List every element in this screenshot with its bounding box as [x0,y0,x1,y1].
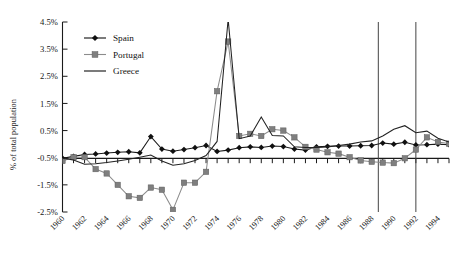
y-axis-tick-marks [63,22,68,212]
series-spain [60,134,452,162]
data-point-marker-spain [137,150,143,156]
x-axis-tick-label: 1968 [137,214,155,232]
data-point-marker-portugal [325,150,330,155]
y-axis-tick-labels: 4.5%3.5%2.5%1.5%0.5%-0.5%-1.5%-2.5% [37,17,58,217]
data-series-layer [60,19,452,212]
data-point-marker-portugal [71,154,76,159]
data-point-marker-portugal [115,182,120,187]
data-point-marker-portugal [137,195,142,200]
data-point-marker-portugal [336,151,341,156]
chart-legend: SpainPortugalGreece [84,33,145,76]
legend-item-spain: Spain [84,33,134,43]
x-axis-tick-label: 1982 [291,214,309,232]
data-point-marker-portugal [203,169,208,174]
data-point-marker-portugal [104,171,109,176]
data-point-marker-spain [203,143,209,149]
data-point-marker-portugal [159,187,164,192]
x-axis-tick-label: 1988 [357,214,375,232]
data-point-marker-portugal [358,158,363,163]
data-point-marker-portugal [181,180,186,185]
legend-item-portugal: Portugal [84,50,145,60]
y-axis-tick-label: -0.5% [37,153,58,163]
data-point-marker-spain [115,149,121,155]
data-point-marker-spain [258,145,264,151]
data-point-marker-spain [236,145,242,151]
data-point-marker-spain [391,141,397,147]
data-point-marker-spain [93,151,99,157]
data-point-marker-spain [369,143,375,149]
data-point-marker-spain [402,139,408,145]
diamond-marker-icon [92,35,98,41]
data-point-marker-spain [358,143,364,149]
y-axis-tick-label: 3.5% [40,44,58,54]
x-axis-tick-labels: 1960196219641966196819701972197419761978… [48,213,442,232]
data-point-marker-portugal [292,135,297,140]
y-axis-tick-label: 1.5% [40,99,58,109]
y-axis-title-group: % of total population [9,98,18,170]
x-axis-tick-label: 1986 [335,214,353,232]
data-point-marker-portugal [259,133,264,138]
data-point-marker-portugal [192,180,197,185]
data-point-marker-spain [380,140,386,146]
data-point-marker-portugal [93,166,98,171]
y-axis-tick-label: 2.5% [40,71,58,81]
data-point-marker-spain [424,142,430,148]
data-point-marker-portugal [380,160,385,165]
x-axis-tick-label: 1966 [114,214,132,232]
data-point-marker-spain [214,149,220,155]
x-axis-tick-label: 1962 [70,214,88,232]
x-axis-tick-label: 1984 [313,213,332,232]
data-point-marker-portugal [435,139,440,144]
legend-label: Spain [113,33,134,43]
data-point-marker-portugal [126,194,131,199]
x-axis-tick-label: 1972 [181,214,199,232]
data-point-marker-portugal [60,158,65,163]
data-point-marker-spain [269,143,275,149]
net-migration-line-chart: % of total population 4.5%3.5%2.5%1.5%0.… [0,0,456,267]
data-point-marker-spain [225,147,231,153]
y-axis-tick-label: 0.5% [40,126,58,136]
data-point-marker-spain [280,144,286,150]
y-axis-title: % of total population [9,98,18,170]
y-axis-tick-label: -1.5% [37,180,58,190]
data-point-marker-portugal [424,135,429,140]
x-axis-tick-label: 1974 [203,213,222,232]
legend-label: Greece [113,66,139,76]
data-point-marker-spain [126,149,132,155]
data-point-marker-spain [170,148,176,154]
chart-container: % of total population 4.5%3.5%2.5%1.5%0.… [0,0,456,267]
x-axis-tick-label: 1994 [424,213,443,232]
data-point-marker-spain [104,150,110,156]
y-axis-tick-label: -2.5% [37,207,58,217]
x-axis-tick-label: 1992 [402,214,420,232]
data-point-marker-portugal [148,185,153,190]
x-axis-tick-label: 1970 [159,214,177,232]
data-point-marker-portugal [82,154,87,159]
data-point-marker-portugal [369,159,374,164]
data-point-marker-portugal [347,154,352,159]
x-axis-tick-label: 1976 [225,214,243,232]
x-axis-tick-label: 1990 [379,214,397,232]
data-point-marker-portugal [214,89,219,94]
series-path-spain [63,137,450,159]
vertical-reference-lines [378,22,416,212]
y-axis-tick-label: 4.5% [40,17,58,27]
data-point-marker-spain [247,144,253,150]
legend-label: Portugal [113,50,145,60]
data-point-marker-spain [192,145,198,151]
x-axis-tick-label: 1964 [92,213,111,232]
data-point-marker-portugal [391,160,396,165]
data-point-marker-portugal [402,156,407,161]
data-point-marker-portugal [170,207,175,212]
x-axis-tick-label: 1978 [247,214,265,232]
square-marker-icon [92,52,98,58]
data-point-marker-portugal [413,147,418,152]
data-point-marker-portugal [270,127,275,132]
data-point-marker-spain [181,147,187,153]
data-point-marker-portugal [281,128,286,133]
x-axis-tick-label: 1980 [269,214,287,232]
legend-item-greece: Greece [84,66,139,76]
